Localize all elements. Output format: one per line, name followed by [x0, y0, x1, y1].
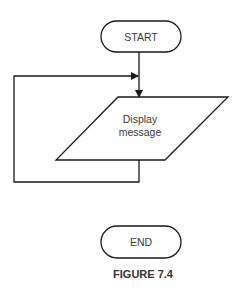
- figure-caption: FIGURE 7.4: [113, 268, 174, 280]
- display-label-line2: message: [119, 126, 162, 138]
- display-label-line1: Display: [123, 113, 158, 125]
- end-label: END: [130, 236, 153, 248]
- end-node: END: [101, 226, 181, 258]
- start-label: START: [124, 31, 158, 43]
- display-message-node: Display message: [56, 97, 228, 160]
- flowchart-canvas: START Display message END FIGURE 7.4: [0, 0, 238, 291]
- start-node: START: [101, 21, 181, 52]
